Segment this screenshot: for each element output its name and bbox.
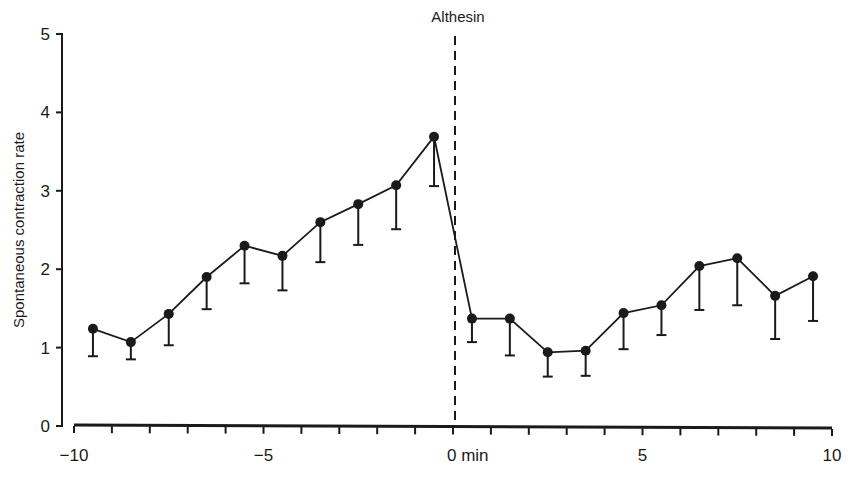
x-tick-label: 10 [823, 446, 842, 465]
data-point [770, 291, 780, 301]
data-point [467, 314, 477, 324]
data-point [315, 217, 325, 227]
x-tick-label: −10 [60, 446, 89, 465]
series-line [93, 137, 813, 353]
y-tick-label: 0 [41, 417, 50, 436]
data-point [164, 309, 174, 319]
y-axis-title: Spontaneous contraction rate [10, 132, 27, 328]
data-point [240, 241, 250, 251]
data-point [619, 308, 629, 318]
data-point [126, 337, 136, 347]
y-tick-label: 3 [41, 182, 50, 201]
x-tick-label: 0 min [447, 446, 489, 465]
x-tick-label: −5 [254, 446, 273, 465]
y-tick-label: 1 [41, 339, 50, 358]
y-tick-label: 4 [41, 103, 50, 122]
y-tick-label: 5 [41, 25, 50, 44]
data-series [88, 132, 818, 377]
data-point [656, 300, 666, 310]
althesin-label: Althesin [431, 8, 484, 25]
data-point [505, 314, 515, 324]
data-point [353, 199, 363, 209]
y-axis: 012345 [41, 25, 62, 436]
data-point [429, 132, 439, 142]
data-point [581, 346, 591, 356]
data-point [391, 180, 401, 190]
data-point [543, 347, 553, 357]
x-axis: −10−50 min510 [60, 425, 842, 465]
althesin-marker: Althesin [431, 8, 484, 426]
data-point [694, 261, 704, 271]
data-point [88, 324, 98, 334]
data-point [732, 253, 742, 263]
y-tick-label: 2 [41, 260, 50, 279]
x-tick-label: 5 [638, 446, 647, 465]
data-point [202, 272, 212, 282]
data-point [277, 251, 287, 261]
data-point [808, 271, 818, 281]
line-chart: 012345 −10−50 min510 Spontaneous contrac… [0, 0, 856, 481]
